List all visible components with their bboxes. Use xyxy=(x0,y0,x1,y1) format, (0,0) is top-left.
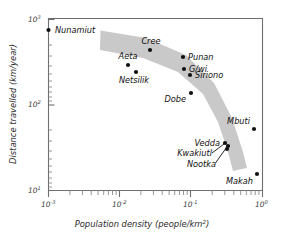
y-tick-labels: 103 102 101 xyxy=(28,14,41,195)
x-axis-title: Population density (people/km2) xyxy=(75,219,210,229)
data-label-nootka: Nootka xyxy=(187,159,216,169)
plot-canvas: 103 102 101 10-3 10-2 10-1 100 Populatio… xyxy=(0,0,284,244)
data-point-gwi[interactable] xyxy=(182,67,186,71)
y-tick-label-10: 101 xyxy=(28,185,41,195)
data-point-makah[interactable] xyxy=(255,172,259,176)
data-label-dobe: Dobe xyxy=(164,94,186,104)
data-point-mbuti[interactable] xyxy=(252,127,256,131)
x-tick-labels: 10-3 10-2 10-1 100 xyxy=(41,199,268,209)
x-tick-label-001: 10-2 xyxy=(112,199,127,209)
data-label-netsilik: Netsilik xyxy=(119,75,150,85)
data-point-cree[interactable] xyxy=(148,48,152,52)
x-tick-label-01: 10-1 xyxy=(183,199,198,209)
data-point-aeta[interactable] xyxy=(126,63,130,67)
x-tick-label-1: 100 xyxy=(255,199,268,209)
data-point-punan[interactable] xyxy=(181,55,185,59)
y-axis-ticks xyxy=(49,20,55,191)
data-point-siriono[interactable] xyxy=(188,73,192,77)
x-tick-label-0001: 10-3 xyxy=(41,199,56,209)
data-point-vedda[interactable] xyxy=(223,141,227,145)
data-point-nootka[interactable] xyxy=(225,147,229,151)
data-point-nunamiut[interactable] xyxy=(46,28,50,32)
nootka-leader-line xyxy=(216,148,227,164)
data-label-aeta: Aeta xyxy=(118,51,138,61)
data-label-makah: Makah xyxy=(226,176,253,186)
y-axis-title: Distance travelled (km/year) xyxy=(8,44,18,164)
data-label-mbuti: Mbuti xyxy=(227,116,251,126)
x-axis-ticks xyxy=(49,191,263,198)
data-label-kwakiutl: Kwakiutl xyxy=(177,148,212,158)
data-point-dobe[interactable] xyxy=(189,91,193,95)
scatter-chart-figure: 103 102 101 10-3 10-2 10-1 100 Populatio… xyxy=(0,0,284,244)
y-tick-label-1000: 103 xyxy=(28,14,41,24)
data-label-punan: Punan xyxy=(188,52,214,62)
data-label-cree: Cree xyxy=(141,36,160,46)
data-point-netsilik[interactable] xyxy=(134,70,138,74)
data-label-siriono: Siriono xyxy=(195,70,223,80)
data-label-nunamiut: Nunamiut xyxy=(55,25,96,35)
y-tick-label-100: 102 xyxy=(28,99,41,109)
data-label-vedda: Vedda xyxy=(194,138,220,148)
